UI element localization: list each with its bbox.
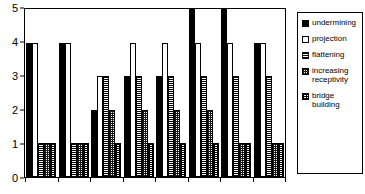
x-axis-tick-mark bbox=[25, 178, 26, 182]
x-axis-tick-mark bbox=[220, 178, 221, 182]
legend-item-label: flattening bbox=[312, 50, 344, 59]
x-axis-tick-mark bbox=[253, 178, 254, 182]
bar bbox=[278, 143, 284, 177]
bar bbox=[180, 143, 186, 177]
legend-item-label: undermining bbox=[312, 18, 356, 27]
bars-layer bbox=[25, 9, 285, 177]
legend-item[interactable]: projection bbox=[302, 34, 359, 43]
plot-area bbox=[24, 8, 286, 178]
x-axis-tick-mark bbox=[123, 178, 124, 182]
legend-swatch-icon bbox=[302, 20, 309, 27]
y-axis-tick-label: 3 bbox=[12, 71, 18, 82]
legend-swatch-icon bbox=[302, 68, 309, 75]
legend-item[interactable]: bridge building bbox=[302, 91, 359, 109]
legend-swatch-icon bbox=[302, 52, 309, 59]
y-axis-tick-label: 4 bbox=[12, 37, 18, 48]
legend-swatch-icon bbox=[302, 93, 309, 100]
bar bbox=[148, 143, 154, 177]
legend-swatch-icon bbox=[302, 36, 309, 43]
x-axis-tick-mark bbox=[285, 178, 286, 182]
x-axis-tick-mark bbox=[58, 178, 59, 182]
bar bbox=[245, 143, 251, 177]
bar-chart: 012345 underminingprojectionflatteningin… bbox=[0, 0, 365, 194]
y-axis-tick-label: 1 bbox=[12, 139, 18, 150]
bar bbox=[50, 143, 56, 177]
bar bbox=[115, 143, 121, 177]
bar bbox=[83, 143, 89, 177]
y-axis-tick-label: 5 bbox=[12, 3, 18, 14]
y-axis: 012345 bbox=[0, 0, 24, 180]
x-axis bbox=[24, 178, 286, 186]
legend-item-label: bridge building bbox=[312, 91, 359, 109]
legend-item[interactable]: flattening bbox=[302, 50, 359, 59]
x-axis-tick-mark bbox=[155, 178, 156, 182]
legend-item[interactable]: undermining bbox=[302, 18, 359, 27]
x-axis-tick-mark bbox=[188, 178, 189, 182]
chart-legend: underminingprojectionflatteningincreasin… bbox=[297, 12, 363, 174]
bar bbox=[213, 143, 219, 177]
legend-item-label: increasing receptivity bbox=[312, 66, 359, 84]
legend-item[interactable]: increasing receptivity bbox=[302, 66, 359, 84]
legend-item-label: projection bbox=[312, 34, 347, 43]
y-axis-tick-label: 2 bbox=[12, 105, 18, 116]
x-axis-tick-mark bbox=[90, 178, 91, 182]
y-axis-tick-label: 0 bbox=[12, 173, 18, 184]
